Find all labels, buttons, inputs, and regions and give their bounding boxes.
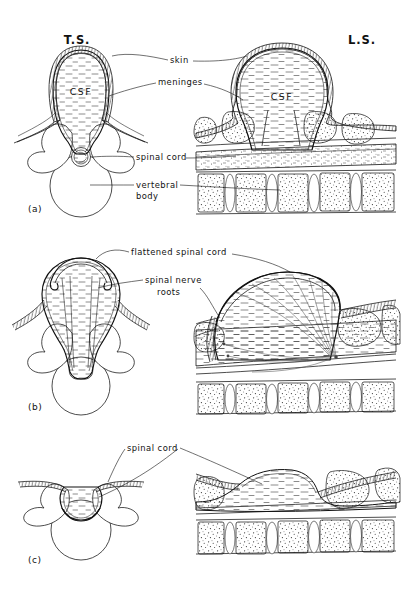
label-csf-ts-a: CSF — [70, 86, 92, 97]
panel-marker-b: (b) — [28, 402, 42, 412]
header-longitudinal-section: L.S. — [348, 33, 376, 47]
label-spinal-cord-c: spinal cord — [127, 443, 178, 453]
panel-marker-a: (a) — [28, 204, 42, 214]
label-spinal-nerve-roots-line1: spinal nerve — [145, 275, 202, 285]
label-flattened-spinal-cord: flattened spinal cord — [131, 247, 227, 257]
label-spinal-cord-a: spinal cord — [136, 152, 187, 162]
ls-c-bone-left — [194, 477, 224, 511]
ls-b-bone-right-2 — [382, 305, 400, 344]
label-vertebral-body-line2: body — [136, 191, 159, 201]
panel-marker-c: (c) — [28, 555, 41, 565]
label-vertebral-body-line1: vertebral — [136, 180, 178, 190]
header-transverse-section: T.S. — [64, 33, 91, 47]
label-spinal-nerve-roots-line2: roots — [157, 287, 180, 297]
spina-bifida-figure: T.S. L.S. — [0, 0, 402, 597]
label-csf-ls-a: CSF — [271, 91, 293, 102]
label-skin: skin — [170, 55, 189, 65]
ls-c-bone-right-1 — [326, 471, 369, 509]
label-meninges: meninges — [158, 77, 203, 87]
